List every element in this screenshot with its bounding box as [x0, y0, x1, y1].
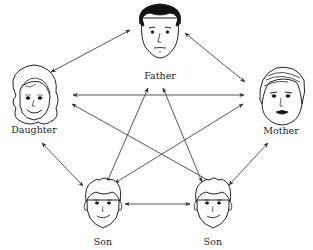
son-right-label: Son [204, 236, 222, 247]
father-face-icon [139, 4, 180, 58]
mother-label: Mother [263, 125, 299, 136]
family-diagram: Father Daughter Mother [0, 0, 313, 250]
son-left-face-icon [84, 178, 122, 228]
edge-father-son-right [163, 88, 202, 182]
edge-daughter-son-right [72, 104, 213, 183]
edge-mother-son-left [115, 104, 243, 183]
son-right-face-icon [194, 178, 232, 228]
father-label: Father [144, 70, 176, 81]
edge-mother-son-right [229, 143, 268, 185]
mother-face-icon [260, 67, 305, 125]
daughter-face-icon [13, 65, 58, 124]
son-left-label: Son [94, 236, 112, 247]
edge-father-mother [185, 33, 245, 82]
daughter-label: Daughter [11, 124, 57, 135]
edge-father-daughter [51, 30, 130, 72]
edge-daughter-son-left [42, 143, 83, 186]
